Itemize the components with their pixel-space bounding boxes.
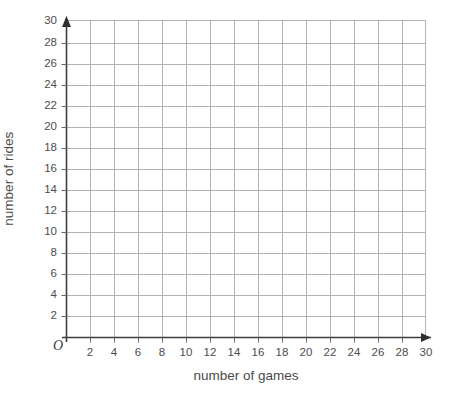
y-tick-label: 14 <box>31 184 57 196</box>
grid-and-axes <box>0 0 456 399</box>
y-tick-label: 6 <box>31 268 57 280</box>
x-tick-label: 30 <box>414 347 438 359</box>
y-tick-label: 10 <box>31 226 57 238</box>
x-tick-label: 6 <box>126 347 150 359</box>
origin-label: O <box>53 339 63 353</box>
y-tick-label: 20 <box>31 121 57 133</box>
x-tick-label: 26 <box>366 347 390 359</box>
x-tick-label: 18 <box>270 347 294 359</box>
y-tick-label: 18 <box>31 142 57 154</box>
x-tick-label: 8 <box>150 347 174 359</box>
y-tick-label: 22 <box>31 100 57 112</box>
x-tick-label: 4 <box>102 347 126 359</box>
y-tick-label: 26 <box>31 58 57 70</box>
x-tick-label: 14 <box>222 347 246 359</box>
y-axis-title: number of rides <box>0 20 18 337</box>
y-tick-label: 12 <box>31 205 57 217</box>
x-tick-label: 28 <box>390 347 414 359</box>
y-tick-label: 30 <box>31 15 57 27</box>
y-tick-label: 4 <box>31 289 57 301</box>
horizontal-grid-lines <box>67 21 426 338</box>
y-tick-label: 2 <box>31 310 57 322</box>
y-tick-label: 16 <box>31 163 57 175</box>
x-tick-label: 10 <box>174 347 198 359</box>
x-tick-label: 24 <box>342 347 366 359</box>
y-tick-label: 28 <box>31 37 57 49</box>
y-tick-label: 24 <box>31 79 57 91</box>
coordinate-grid-chart: O 2 4 6 8 10 12 14 16 18 20 22 24 26 28 … <box>0 0 456 399</box>
x-axis-title: number of games <box>66 369 426 383</box>
y-tick-label: 8 <box>31 247 57 259</box>
x-tick-label: 16 <box>246 347 270 359</box>
x-tick-label: 2 <box>78 347 102 359</box>
x-tick-label: 12 <box>198 347 222 359</box>
y-axis-title-text: number of rides <box>2 132 16 226</box>
x-tick-label: 20 <box>294 347 318 359</box>
x-tick-label: 22 <box>318 347 342 359</box>
x-axis-line <box>62 333 431 342</box>
vertical-grid-lines <box>67 21 426 338</box>
